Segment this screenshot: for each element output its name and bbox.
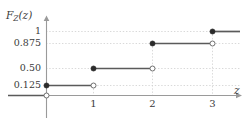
cdf-step-chart: FZ(z) 1 0.875 0.50 0.125 1 2 3 z (0, 0, 248, 124)
y-tick-label-1: 1 (0, 25, 41, 36)
closed-endpoint-markers (44, 29, 215, 88)
y-tick-label-0875: 0.875 (0, 37, 41, 48)
open-point-3-0875 (210, 41, 215, 46)
y-tick-label-050: 0.50 (0, 62, 41, 73)
y-axis-arrow (44, 16, 50, 22)
x-axis-label: z (234, 84, 240, 96)
closed-point-1-050 (91, 66, 96, 71)
x-tick-label-3: 3 (202, 98, 223, 109)
horizontal-gridlines (46, 32, 240, 86)
closed-point-2-0875 (150, 41, 155, 46)
open-point-1-0125 (91, 83, 96, 88)
y-tick-label-0125: 0.125 (0, 79, 41, 90)
open-point-2-050 (150, 66, 155, 71)
open-point-0-0 (44, 93, 49, 98)
x-tick-label-1: 1 (83, 98, 104, 109)
y-axis-label: FZ(z) (6, 9, 32, 23)
closed-point-0-0125 (44, 83, 49, 88)
closed-point-3-1 (210, 29, 215, 34)
open-endpoint-markers (44, 41, 215, 98)
y-axis-label-argument: (z) (19, 9, 33, 21)
x-tick-label-2: 2 (142, 98, 163, 109)
